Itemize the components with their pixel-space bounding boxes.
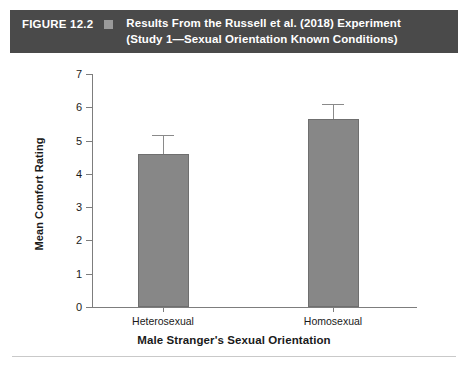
figure-header: FIGURE 12.2 Results From the Russell et … [10,10,458,53]
y-axis-tick-label: 7 [60,68,82,80]
y-axis-tick [86,74,92,75]
figure-number: FIGURE 12.2 [22,15,93,32]
y-axis-tick-label: 5 [60,135,82,147]
chart-plot-area: Mean Comfort Rating 01234567 Heterosexua… [0,53,468,338]
y-axis-tick-label: 6 [60,101,82,113]
figure-title: Results From the Russell et al. (2018) E… [126,15,401,47]
y-axis-tick-label: 3 [60,201,82,213]
x-axis-line [92,307,417,308]
y-axis-label: Mean Comfort Rating [33,119,45,269]
y-axis-line [92,74,93,307]
square-marker-icon [104,20,113,29]
y-axis-tick-label: 1 [60,268,82,280]
error-bar-stem [333,104,334,119]
y-axis-tick [86,307,92,308]
y-axis-tick [86,274,92,275]
x-axis-tick [163,307,164,312]
y-axis-tick [86,141,92,142]
x-axis-category-label: Heterosexual [132,315,194,327]
figure-title-line-2: (Study 1—Sexual Orientation Known Condit… [126,31,401,47]
figure-title-line-1: Results From the Russell et al. (2018) E… [126,15,401,31]
bar-homosexual [308,119,359,307]
y-axis-tick-label: 0 [60,301,82,313]
error-bar-cap [152,135,174,136]
x-axis-category-label: Homosexual [304,315,362,327]
bottom-divider [12,356,456,357]
y-axis-tick-label: 4 [60,168,82,180]
error-bar-cap [322,104,344,105]
y-axis-tick [86,174,92,175]
y-axis-tick [86,107,92,108]
x-axis-tick [333,307,334,312]
y-axis-tick-label: 2 [60,234,82,246]
bar-heterosexual [138,154,189,307]
y-axis-tick [86,240,92,241]
error-bar-stem [163,135,164,154]
y-axis-tick [86,207,92,208]
x-axis-label: Male Stranger's Sexual Orientation [0,334,468,346]
figure-container: FIGURE 12.2 Results From the Russell et … [0,0,468,369]
